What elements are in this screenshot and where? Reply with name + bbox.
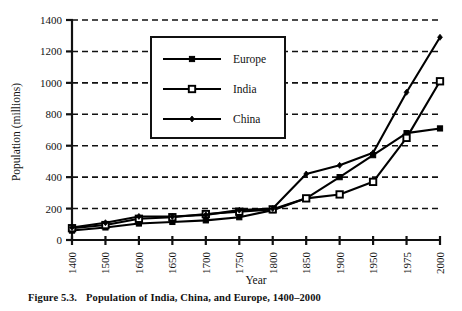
y-tick-label-1200: 1200 (40, 45, 63, 57)
figure-caption: Figure 5.3.Population of India, China, a… (28, 292, 458, 303)
y-tick-label-400: 400 (46, 171, 63, 183)
y-tick-label-0: 0 (57, 234, 63, 246)
figure-caption-text: Population of India, China, and Europe, … (86, 292, 321, 303)
y-tick-label-1000: 1000 (40, 77, 63, 89)
x-tick-label-1600: 1600 (133, 252, 145, 275)
figure-number: Figure 5.3. (28, 292, 77, 303)
y-tick-labels-group: 0200400600800100012001400 (40, 14, 63, 246)
marker-europe-2000 (437, 126, 442, 131)
series-line-europe (72, 128, 440, 230)
marker-india-1975 (403, 135, 409, 141)
figure-container: 0200400600800100012001400 14001500160016… (0, 0, 462, 311)
marker-india-1900 (336, 191, 342, 197)
x-tick-label-1400: 1400 (66, 252, 78, 275)
x-tick-label-1800: 1800 (267, 252, 279, 275)
x-tick-label-1750: 1750 (233, 252, 245, 275)
marker-europe-1900 (337, 175, 342, 180)
legend-marker-india (189, 86, 195, 92)
chart-plot-area: 0200400600800100012001400 14001500160016… (0, 0, 462, 285)
y-tick-label-200: 200 (46, 203, 63, 215)
x-tick-label-1975: 1975 (401, 252, 413, 275)
marker-india-2000 (437, 78, 443, 84)
x-axis-title: Year (245, 274, 266, 285)
x-tick-labels-group: 1400150016001650170017501800185019001950… (66, 252, 446, 275)
legend-marker-europe (189, 56, 194, 61)
y-axis-title: Population (millions) (10, 83, 23, 181)
legend-label-europe: Europe (233, 53, 266, 66)
x-tick-label-1700: 1700 (200, 252, 212, 275)
x-tick-label-1500: 1500 (99, 252, 111, 275)
x-tick-label-1950: 1950 (367, 252, 379, 275)
y-tick-label-800: 800 (46, 108, 63, 120)
x-tick-label-1900: 1900 (334, 252, 346, 275)
legend-label-china: China (233, 113, 260, 125)
y-tick-label-1400: 1400 (40, 14, 63, 26)
x-tick-label-1850: 1850 (300, 252, 312, 275)
population-line-chart: 0200400600800100012001400 14001500160016… (0, 0, 462, 285)
marker-india-1850 (303, 195, 309, 201)
x-tick-label-1650: 1650 (166, 252, 178, 275)
series-europe (69, 126, 442, 233)
x-tick-label-2000: 2000 (434, 252, 446, 275)
chart-legend: EuropeIndiaChina (151, 37, 285, 138)
y-tick-label-600: 600 (46, 140, 63, 152)
marker-europe-1700 (203, 218, 208, 223)
marker-india-1950 (370, 179, 376, 185)
marker-china-1900 (337, 162, 342, 168)
legend-label-india: India (233, 83, 257, 95)
